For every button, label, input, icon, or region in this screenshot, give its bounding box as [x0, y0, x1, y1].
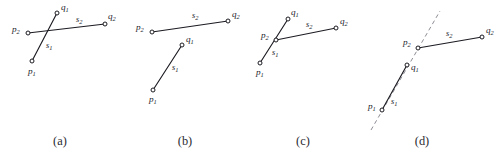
endpoint-marker-q2 [480, 35, 484, 39]
point-label-p1: p1 [255, 67, 264, 78]
endpoint-marker-p2 [150, 30, 154, 34]
panel-caption: (c) [296, 134, 310, 148]
endpoint-marker-p1 [258, 61, 262, 65]
endpoint-marker-q1 [180, 43, 184, 47]
endpoint-marker-q2 [226, 19, 230, 23]
figure-panel-d: p1q1p2q2s1s2(d) [367, 11, 495, 148]
panel-caption: (d) [415, 134, 429, 148]
segment-label-s2: s2 [76, 15, 83, 25]
endpoint-marker-p1 [151, 88, 155, 92]
endpoint-marker-p2 [274, 38, 278, 42]
segment-s2 [276, 28, 336, 40]
segment-label-s1: s1 [46, 41, 52, 51]
point-label-q2: q2 [340, 16, 349, 27]
point-label-q2: q2 [232, 9, 241, 20]
endpoint-marker-q1 [55, 11, 59, 15]
segment-label-s1: s1 [391, 97, 397, 107]
endpoint-marker-q1 [286, 17, 290, 21]
figure-panel-b: p1q1p2q2s1s2(b) [135, 9, 241, 148]
point-label-p1: p1 [367, 101, 376, 112]
figure-container: p1q1p2q2s1s2(a)p1q1p2q2s1s2(b)p1q1p2q2s1… [0, 0, 503, 156]
segment-label-s1: s1 [172, 63, 178, 73]
endpoint-marker-q1 [405, 63, 409, 67]
point-label-q1: q1 [186, 34, 194, 45]
segment-s2 [28, 24, 105, 33]
point-label-q1: q1 [291, 7, 299, 18]
point-label-p2: p2 [402, 37, 412, 48]
segment-s1 [32, 13, 57, 61]
segment-label-s1: s1 [272, 48, 278, 58]
point-label-p1: p1 [148, 94, 157, 105]
segment-label-s2: s2 [192, 11, 199, 21]
panel-caption: (a) [53, 134, 67, 148]
figure-panel-a: p1q1p2q2s1s2(a) [11, 2, 117, 148]
endpoint-marker-q2 [103, 22, 107, 26]
geometry-figure-canvas: p1q1p2q2s1s2(a)p1q1p2q2s1s2(b)p1q1p2q2s1… [0, 0, 503, 156]
point-label-q1: q1 [61, 2, 69, 13]
point-label-p2: p2 [11, 24, 21, 35]
figure-panel-c: p1q1p2q2s1s2(c) [255, 7, 349, 148]
panels-group: p1q1p2q2s1s2(a)p1q1p2q2s1s2(b)p1q1p2q2s1… [11, 2, 495, 148]
point-label-q2: q2 [486, 25, 495, 36]
endpoint-marker-p2 [26, 31, 30, 35]
point-label-p2: p2 [260, 30, 270, 41]
segment-s2 [152, 21, 228, 32]
panel-caption: (b) [178, 134, 192, 148]
segment-label-s2: s2 [446, 29, 453, 39]
endpoint-marker-p1 [380, 108, 384, 112]
endpoint-marker-p2 [416, 46, 420, 50]
endpoint-marker-q2 [334, 26, 338, 30]
point-label-p2: p2 [135, 22, 145, 33]
segment-label-s2: s2 [306, 20, 313, 30]
point-label-q1: q1 [411, 62, 419, 73]
point-label-p1: p1 [27, 66, 36, 77]
point-label-q2: q2 [108, 11, 117, 22]
endpoint-marker-p1 [30, 59, 34, 63]
